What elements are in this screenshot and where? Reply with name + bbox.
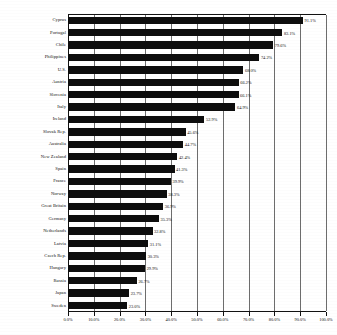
category-label: Sweden xyxy=(0,303,66,309)
bar-row: Hungary29.9% xyxy=(0,262,337,274)
bar: 32.8% xyxy=(68,227,153,234)
bar-value-label: 68.0% xyxy=(245,67,256,72)
bar-row: Philippines74.2% xyxy=(0,51,337,63)
bar-row: Great Britain36.9% xyxy=(0,200,337,212)
bar-value-label: 45.6% xyxy=(187,129,198,134)
bar: 23.7% xyxy=(68,289,129,296)
category-label: Great Britain xyxy=(0,203,66,209)
bar: 41.3% xyxy=(68,165,175,172)
x-tick-label: 0.0% xyxy=(63,317,72,323)
x-tick-label: 80.0% xyxy=(269,317,280,323)
category-label: Chile xyxy=(0,42,66,48)
bar: 44.7% xyxy=(68,141,183,148)
category-label: Philippines xyxy=(0,54,66,60)
bar: 91.1% xyxy=(68,17,303,24)
x-tick-label: 10.0% xyxy=(88,317,99,323)
x-tick-label: 40.0% xyxy=(166,317,177,323)
bar-track: 64.9% xyxy=(68,101,326,113)
bar-row: Germany35.3% xyxy=(0,213,337,225)
bar-value-label: 74.2% xyxy=(261,55,272,60)
bar-row: Australia44.7% xyxy=(0,138,337,150)
bar: 30.3% xyxy=(68,252,146,259)
bar-row: Latvia31.1% xyxy=(0,237,337,249)
category-label: Germany xyxy=(0,216,66,222)
bar: 31.1% xyxy=(68,240,148,247)
x-tick-label: 20.0% xyxy=(114,317,125,323)
bar: 52.9% xyxy=(68,116,204,123)
bar-value-label: 32.8% xyxy=(154,229,165,234)
bar: 39.9% xyxy=(68,178,171,185)
category-label: France xyxy=(0,178,66,184)
bar: 83.1% xyxy=(68,29,282,36)
x-tick xyxy=(223,312,224,316)
bar-track: 23.0% xyxy=(68,299,326,311)
category-label: Norway xyxy=(0,191,66,197)
bar-row: Austria66.2% xyxy=(0,76,337,88)
category-label: Portugal xyxy=(0,30,66,36)
bar-row: France39.9% xyxy=(0,175,337,187)
x-tick-label: 60.0% xyxy=(217,317,228,323)
bar-row: Slovenia66.1% xyxy=(0,88,337,100)
bar-track: 91.1% xyxy=(68,14,326,26)
bar-row: Ireland52.9% xyxy=(0,113,337,125)
bar-track: 66.1% xyxy=(68,88,326,100)
bar-value-label: 42.4% xyxy=(179,154,190,159)
bar-track: 35.3% xyxy=(68,213,326,225)
category-label: Spain xyxy=(0,166,66,172)
x-tick-label: 70.0% xyxy=(243,317,254,323)
bar-row: Sweden23.0% xyxy=(0,299,337,311)
bar-track: 52.9% xyxy=(68,113,326,125)
bar: 66.1% xyxy=(68,91,239,98)
bar-track: 30.3% xyxy=(68,250,326,262)
category-label: Slovak Rep. xyxy=(0,129,66,135)
x-tick xyxy=(197,312,198,316)
bar-value-label: 39.9% xyxy=(172,179,183,184)
bar: 23.0% xyxy=(68,302,127,309)
bar-value-label: 52.9% xyxy=(206,117,217,122)
bar-value-label: 38.3% xyxy=(168,191,179,196)
bar-value-label: 30.3% xyxy=(148,253,159,258)
bar-rows: Cyprus91.1%Portugal83.1%Chile79.6%Philip… xyxy=(0,14,337,312)
bar-row: New Zealand42.4% xyxy=(0,150,337,162)
bar: 26.7% xyxy=(68,277,137,284)
category-label: Latvia xyxy=(0,241,66,247)
category-label: Ireland xyxy=(0,116,66,122)
bar-track: 31.1% xyxy=(68,237,326,249)
bar: 42.4% xyxy=(68,153,177,160)
bar-value-label: 41.3% xyxy=(176,167,187,172)
category-label: Australia xyxy=(0,141,66,147)
x-tick-label: 100.0% xyxy=(319,317,333,323)
bar-value-label: 66.1% xyxy=(240,92,251,97)
bar: 38.3% xyxy=(68,190,167,197)
bar-value-label: 44.7% xyxy=(185,142,196,147)
x-tick xyxy=(145,312,146,316)
bar-row: Italy64.9% xyxy=(0,101,337,113)
bar-track: 79.6% xyxy=(68,39,326,51)
bar-row: Norway38.3% xyxy=(0,188,337,200)
bar-value-label: 29.9% xyxy=(147,266,158,271)
x-tick xyxy=(171,312,172,316)
bar-track: 44.7% xyxy=(68,138,326,150)
bar-value-label: 26.7% xyxy=(138,278,149,283)
bar-row: Netherlands32.8% xyxy=(0,225,337,237)
bar-track: 42.4% xyxy=(68,150,326,162)
bar-track: 26.7% xyxy=(68,275,326,287)
bar-row: Russia26.7% xyxy=(0,275,337,287)
x-tick xyxy=(300,312,301,316)
category-label: New Zealand xyxy=(0,154,66,160)
x-tick xyxy=(274,312,275,316)
bar-row: Czech Rep.30.3% xyxy=(0,250,337,262)
bar: 64.9% xyxy=(68,103,235,110)
x-tick xyxy=(326,312,327,316)
bar: 45.6% xyxy=(68,128,186,135)
bar-track: 36.9% xyxy=(68,200,326,212)
bar-track: 41.3% xyxy=(68,163,326,175)
category-label: Italy xyxy=(0,104,66,110)
bar-row: Chile79.6% xyxy=(0,39,337,51)
category-label: Netherlands xyxy=(0,228,66,234)
category-label: Cyprus xyxy=(0,17,66,23)
bar-chart: Cyprus91.1%Portugal83.1%Chile79.6%Philip… xyxy=(0,0,337,335)
category-label: Slovenia xyxy=(0,92,66,98)
x-tick xyxy=(94,312,95,316)
bar-row: Japan23.7% xyxy=(0,287,337,299)
